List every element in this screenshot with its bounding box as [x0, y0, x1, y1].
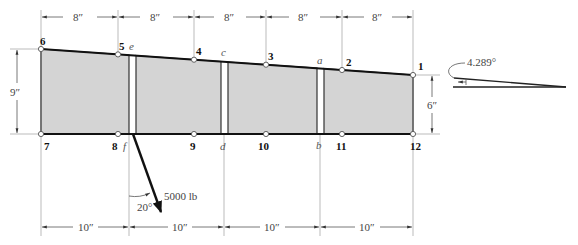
gap-label-a: a — [317, 54, 323, 66]
left-height-label: 9″ — [10, 86, 20, 98]
load-magnitude: 5000 lb — [164, 190, 198, 202]
node-label-7: 7 — [44, 140, 50, 152]
bottom-dim-4: 10″ — [359, 221, 375, 233]
top-dim-4: 8″ — [298, 11, 308, 23]
panel-2 — [136, 56, 221, 135]
node-label-3: 3 — [268, 50, 274, 62]
top-dim-1: 8″ — [73, 11, 83, 23]
right-height-label: 6″ — [427, 99, 437, 111]
gap-label-e: e — [129, 40, 134, 52]
top-dim-2: 8″ — [150, 11, 160, 23]
top-dim-5: 8″ — [372, 11, 382, 23]
panel-right — [324, 69, 413, 135]
node-label-2: 2 — [346, 56, 352, 68]
taper-angle-label: 4.289° — [467, 56, 496, 68]
bottom-dim-1: 10″ — [78, 221, 94, 233]
panel-left — [41, 49, 129, 134]
node-label-8: 8 — [112, 140, 118, 152]
node-label-6: 6 — [40, 35, 46, 47]
gap-label-f: f — [123, 140, 128, 152]
gap-label-d: d — [220, 140, 226, 152]
node-label-12: 12 — [410, 140, 422, 152]
beam-diagram: 6 5 4 3 2 1 7 8 9 10 11 12 e f c d a b 8… — [0, 0, 578, 245]
node-label-9: 9 — [190, 140, 196, 152]
node-label-10: 10 — [258, 140, 270, 152]
load-angle-arc — [129, 193, 150, 197]
gap-label-c: c — [221, 46, 226, 58]
bottom-dim-3: 10″ — [264, 221, 280, 233]
top-dim-3: 8″ — [224, 11, 234, 23]
load-angle: 20° — [137, 201, 152, 213]
node-label-1: 1 — [418, 60, 424, 72]
node-label-11: 11 — [336, 140, 346, 152]
panel-3 — [228, 62, 317, 134]
node-label-5: 5 — [119, 40, 125, 52]
bottom-dim-2: 10″ — [172, 221, 188, 233]
node-label-4: 4 — [196, 45, 202, 57]
gap-label-b: b — [316, 139, 322, 151]
